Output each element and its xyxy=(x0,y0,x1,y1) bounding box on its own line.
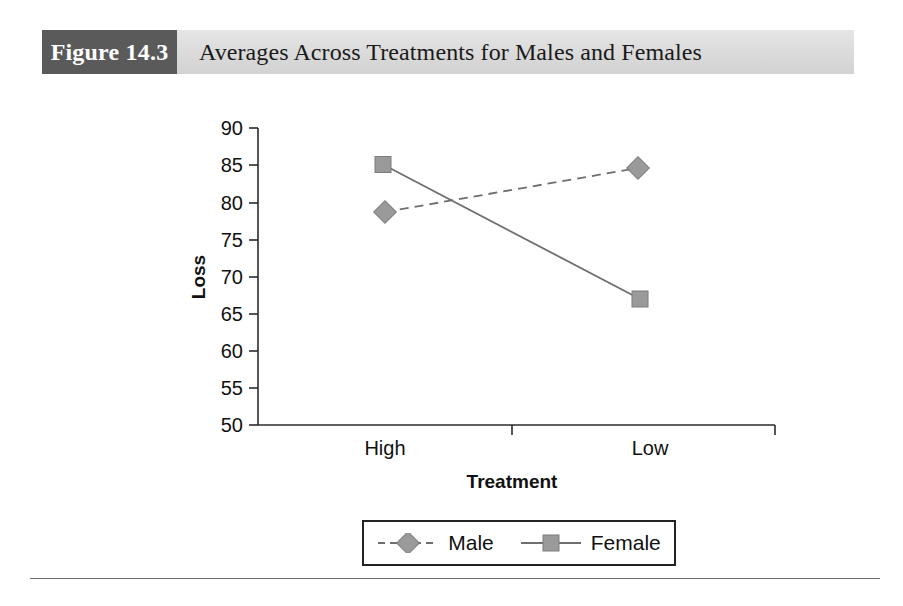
female-data-point-low xyxy=(632,291,648,307)
x-tick-label-low: Low xyxy=(632,437,669,459)
y-tick-label-55: 55 xyxy=(221,377,243,399)
y-axis-title: Loss xyxy=(188,255,209,299)
legend-label-male: Male xyxy=(448,531,494,555)
x-tick-label-high: High xyxy=(364,437,405,459)
y-tick-label-60: 60 xyxy=(221,340,243,362)
y-tick-label-85: 85 xyxy=(221,154,243,176)
male-legend-swatch-icon xyxy=(377,533,439,553)
y-tick-label-80: 80 xyxy=(221,192,243,214)
page-bottom-rule xyxy=(30,578,880,579)
male-data-point-low xyxy=(627,157,650,180)
figure-header-bar: Figure 14.3 Averages Across Treatments f… xyxy=(42,30,854,74)
legend-entry-female: Female xyxy=(520,531,661,555)
male-series-line xyxy=(385,168,638,212)
y-tick-label-75: 75 xyxy=(221,229,243,251)
figure-number-label: Figure 14.3 xyxy=(42,30,177,74)
chart-svg: 90 85 80 75 70 65 60 55 50 Loss High Low… xyxy=(0,90,903,510)
chart-legend: Male Female xyxy=(362,520,676,566)
female-series-line xyxy=(383,165,640,300)
line-chart: 90 85 80 75 70 65 60 55 50 Loss High Low… xyxy=(0,90,903,510)
female-data-point-high xyxy=(375,157,391,173)
figure-caption: Averages Across Treatments for Males and… xyxy=(177,30,854,74)
male-data-point-high xyxy=(374,201,397,224)
y-tick-label-90: 90 xyxy=(221,117,243,139)
female-legend-swatch-icon xyxy=(520,533,582,553)
x-axis-title: Treatment xyxy=(467,471,558,492)
legend-entry-male: Male xyxy=(377,531,494,555)
y-axis-ticks xyxy=(249,128,258,425)
y-tick-label-65: 65 xyxy=(221,303,243,325)
y-tick-label-70: 70 xyxy=(221,266,243,288)
y-tick-label-50: 50 xyxy=(221,414,243,436)
legend-label-female: Female xyxy=(591,531,661,555)
